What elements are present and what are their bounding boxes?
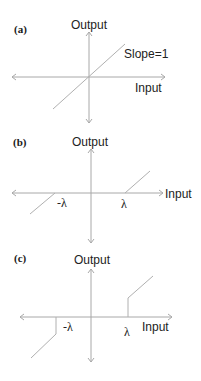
- panel-a-label: (a): [14, 23, 27, 36]
- panel-b-positive-segment: [125, 171, 150, 193]
- panel-b-neg-lambda-label: -λ: [57, 196, 67, 210]
- panel-c: (c) Output -λ λ Input: [14, 252, 172, 362]
- threshold-functions-diagram: (a) Output Slope=1 Input (b) Output -λ λ…: [0, 0, 201, 381]
- panel-a-input-label: Input: [135, 81, 162, 95]
- panel-c-negative-segment: [31, 317, 56, 358]
- panel-b-input-label: Input: [165, 187, 192, 201]
- panel-c-pos-lambda-label: λ: [124, 325, 130, 339]
- panel-a-output-label: Output: [71, 18, 108, 32]
- panel-c-neg-lambda-label: -λ: [63, 320, 73, 334]
- panel-a-slope-annotation: Slope=1: [124, 47, 169, 61]
- panel-c-positive-segment: [128, 276, 153, 317]
- panel-b: (b) Output -λ λ Input: [12, 135, 192, 243]
- panel-c-label: (c): [14, 252, 27, 265]
- panel-c-input-label: Input: [142, 320, 169, 334]
- panel-c-output-label: Output: [74, 253, 111, 267]
- panel-a: (a) Output Slope=1 Input: [12, 18, 169, 123]
- panel-b-label: (b): [13, 136, 27, 149]
- panel-b-negative-segment: [30, 193, 55, 214]
- panel-b-output-label: Output: [72, 135, 109, 149]
- panel-b-pos-lambda-label: λ: [121, 197, 127, 211]
